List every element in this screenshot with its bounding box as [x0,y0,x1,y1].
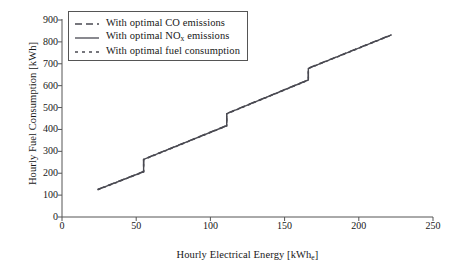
legend-key-dotted-icon [74,44,100,56]
legend-item-co: With optimal CO emissions [74,15,240,29]
legend-key-dashed-icon [74,16,100,28]
legend-label-nox: With optimal NOx emissions [106,30,229,43]
legend-item-nox: With optimal NOx emissions [74,29,240,43]
legend-item-fuel: With optimal fuel consumption [74,43,240,57]
chart-figure: Hourly Fuel Consumption [kWh] 0100200300… [0,0,463,271]
legend-key-solid-icon [74,30,100,42]
legend-label-co: With optimal CO emissions [106,17,225,28]
legend-label-nox-suffix: emissions [184,30,229,41]
chart-legend: With optimal CO emissions With optimal N… [68,11,248,61]
legend-label-fuel: With optimal fuel consumption [106,45,240,56]
legend-label-nox-prefix: With optimal NO [106,30,181,41]
